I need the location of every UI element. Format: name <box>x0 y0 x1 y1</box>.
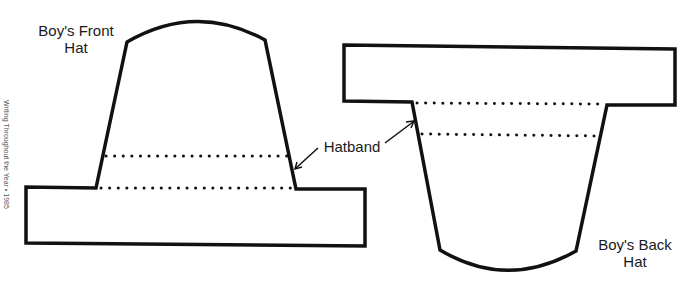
front-hat-label: Boy's Front Hat <box>26 22 126 56</box>
back-hat-label: Boy's Back Hat <box>590 236 680 270</box>
arrow-to-front-hat <box>296 148 318 168</box>
arrow-to-back-hat <box>385 122 413 143</box>
hatband-label: Hatband <box>320 138 384 155</box>
